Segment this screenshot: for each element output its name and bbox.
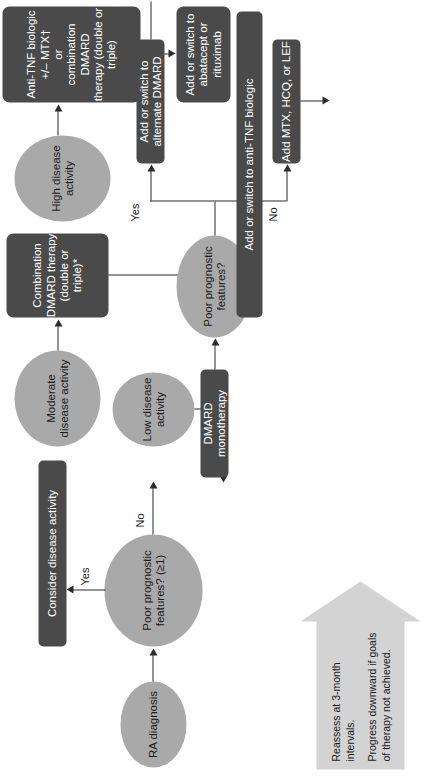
connector-mtx-to-antitnf-bar [300,100,324,101]
node-high-disease-activity: High disease activity [14,135,110,221]
node-antitnf-or-combination: Anti-TNF biologic +/– MTX† or combinatio… [2,6,140,102]
edge-label-yes-bottom: Yes [128,203,140,221]
connector-prognostic-yes-vert [72,589,105,590]
arrowhead-dmard-to-prognostic2-icon [211,338,219,345]
connector-prognostic2-out [214,201,215,235]
arrowhead-prognostic-no-icon [149,481,157,488]
arrowhead-high-icon [54,104,62,111]
node-add-switch-antitnf: Add or switch to anti-TNF biologic [236,11,262,317]
node-combination-dmard: Combination DMARD therapy (double or tri… [6,233,108,317]
note-line-1: Reassess at 3-month intervals. [328,625,356,761]
arrowhead-prognostic-yes-icon [66,585,73,593]
connector-moderate-to-combination [57,324,58,350]
edge-label-yes-top: Yes [78,567,90,585]
arrowhead-ra-to-prognostic-icon [149,648,157,655]
reassess-note: Reassess at 3-month intervals. Progress … [300,579,420,769]
connector-alternate-dmard-right [150,1,151,39]
note-arrowhead-icon [300,581,420,621]
node-add-switch-abatacept: Add or switch to abatacept or rituximab [176,6,230,102]
connector-prognostic2-no-horiz [286,169,287,201]
node-poor-prognostic-features-1: Poor prognostic features? (≥1) [104,534,202,646]
arrowhead-prognostic2-no-icon [283,164,291,171]
node-consider-disease-activity: Consider disease activity [38,460,66,646]
node-low-disease-activity: Low disease activity [112,372,194,446]
note-line-2: Progress downward if goals of therapy no… [364,625,392,761]
connector-prognostic-no-horiz [152,486,153,534]
flowchart-canvas: Reassess at 3-month intervals. Progress … [0,0,439,777]
arrowhead-mtx-down-icon [322,96,329,104]
connector-high-to-antitnf [57,109,58,135]
connector-dmard-to-prognostic2 [214,343,215,369]
node-add-switch-alternate-dmard: Add or switch to alternate DMARD [136,39,164,163]
connector-prognostic2-yes-vert [150,200,214,201]
arrowhead-moderate-icon [54,319,62,326]
connector-ra-to-prognostic [152,653,153,681]
node-add-mtx-hcq-lef: Add MTX, HCQ, or LEF [272,39,300,163]
arrowhead-prognostic2-yes-icon [147,164,155,171]
note-text: Reassess at 3-month intervals. Progress … [320,625,400,761]
edge-label-no-bottom: No [266,207,278,221]
edge-label-no-top: No [133,513,145,527]
node-ra-diagnosis: RA diagnosis [120,681,186,767]
node-dmard-monotherapy: DMARD monotherapy [200,369,228,477]
connector-prognostic2-yes-horiz [150,169,151,201]
arrowhead-abatacept-icon [168,49,175,57]
node-moderate-disease-activity: Moderate disease activity [14,350,100,446]
